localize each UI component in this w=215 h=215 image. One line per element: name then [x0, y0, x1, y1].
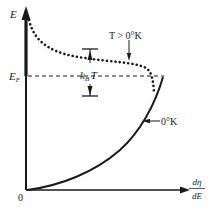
- cold-curve-label: 0°K: [161, 116, 178, 127]
- origin-label: 0: [18, 192, 23, 203]
- x-axis-arrow-icon: [180, 187, 190, 194]
- hot-curve-pointer: [127, 40, 131, 61]
- y-axis-label: E: [9, 8, 17, 20]
- x-axis: [26, 187, 190, 194]
- curve-zero-kelvin: [27, 77, 163, 190]
- fermi-distribution-diagram: E EF kBT T > 0°K 0°K 0 dη dE: [0, 0, 215, 215]
- arrow-down-icon: [127, 53, 131, 61]
- y-axis: [22, 6, 31, 190]
- x-axis-label: dη dE: [189, 177, 205, 201]
- fermi-level-label: EF: [8, 70, 21, 84]
- hot-curve-label: T > 0°K: [109, 30, 143, 41]
- thermal-width-label: kBT: [80, 69, 98, 83]
- y-axis-arrow-icon: [22, 6, 31, 20]
- svg-text:dη: dη: [193, 177, 203, 187]
- svg-text:dE: dE: [192, 191, 203, 201]
